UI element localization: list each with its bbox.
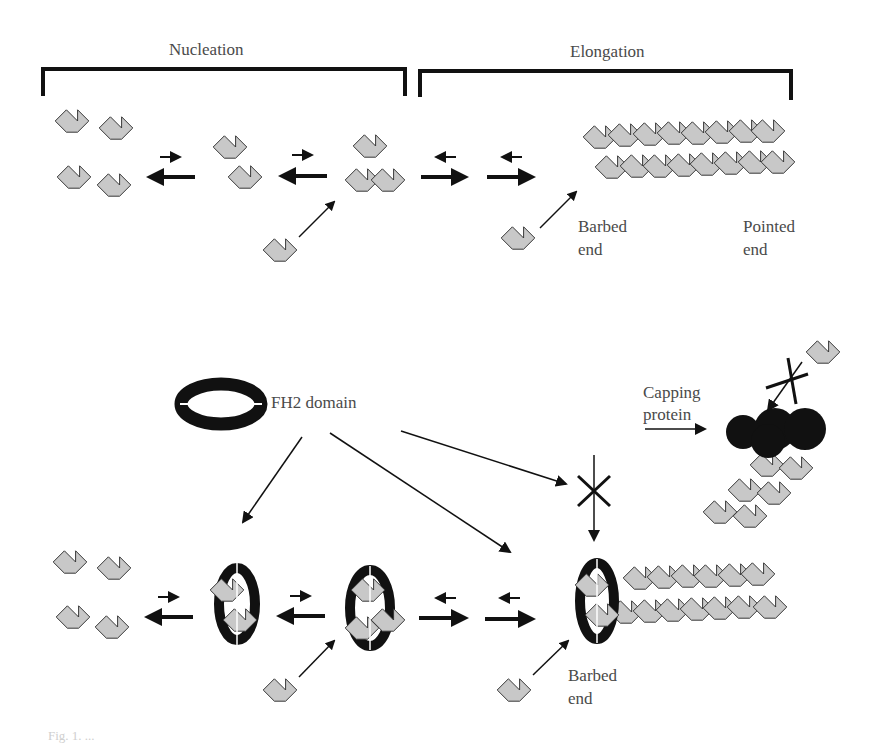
nucleation-bracket bbox=[43, 69, 405, 96]
free-monomers-bottom bbox=[53, 551, 131, 638]
barbed-end-label-bottom-2: end bbox=[568, 688, 593, 710]
barbed-end-label-bottom: Barbed bbox=[568, 665, 617, 687]
fh2-domain-label: FH2 domain bbox=[271, 392, 356, 414]
fh2-bound-dimer bbox=[210, 562, 257, 646]
incoming-monomer bbox=[263, 202, 334, 261]
figure-caption: Fig. 1. ... bbox=[48, 728, 95, 744]
equilibrium-arrows-top bbox=[150, 155, 532, 177]
fh2-bound-filament bbox=[575, 559, 787, 643]
barbed-end-label-top: Barbed bbox=[578, 216, 627, 238]
elongation-bracket bbox=[420, 71, 791, 100]
fh2-bound-trimer bbox=[345, 566, 405, 650]
nucleation-label: Nucleation bbox=[169, 39, 244, 61]
barbed-end-label-top-2: end bbox=[578, 239, 603, 261]
pointed-end-label-2: end bbox=[743, 239, 768, 261]
elongation-label: Elongation bbox=[570, 41, 645, 63]
capping-protein-label: Capping bbox=[643, 382, 701, 404]
actin-trimer-top bbox=[345, 135, 405, 191]
free-monomers-top bbox=[55, 110, 133, 196]
blocked-arrow-capping bbox=[578, 455, 610, 540]
fh2-pointer-arrows bbox=[243, 431, 566, 552]
fh2-domain-icon bbox=[180, 384, 262, 424]
capping-protein-label-2: protein bbox=[643, 404, 691, 426]
equilibrium-arrows-bottom bbox=[148, 596, 532, 619]
incoming-monomer bbox=[497, 641, 568, 701]
actin-filament-top bbox=[583, 120, 795, 178]
blocked-monomer-addition bbox=[766, 341, 840, 410]
incoming-monomer bbox=[501, 192, 576, 249]
actin-dimer-top bbox=[213, 136, 262, 188]
incoming-monomer bbox=[263, 641, 334, 701]
pointed-end-label: Pointed bbox=[743, 216, 795, 238]
